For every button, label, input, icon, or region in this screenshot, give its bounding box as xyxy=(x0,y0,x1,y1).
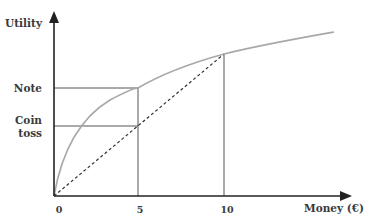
utility-diagram: Utility Note Coin toss 0 5 10 Money (€) xyxy=(0,0,382,220)
chord-dashed-line xyxy=(54,54,224,196)
note-label: Note xyxy=(14,82,42,94)
y-axis-arrow-icon xyxy=(49,11,59,23)
utility-curve xyxy=(54,32,334,196)
x-tick-0: 0 xyxy=(56,204,63,215)
x-axis-arrow-icon xyxy=(340,191,352,201)
x-tick-10: 10 xyxy=(220,204,234,215)
x-axis-label: Money (€) xyxy=(304,202,364,214)
y-axis-label: Utility xyxy=(5,17,43,29)
x-tick-5: 5 xyxy=(137,204,144,215)
coin-label: Coin xyxy=(15,114,42,126)
toss-label: toss xyxy=(18,127,42,139)
